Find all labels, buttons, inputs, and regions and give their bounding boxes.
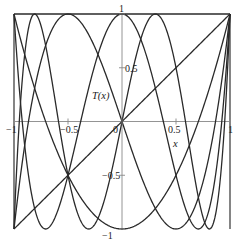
x-axis-label: x <box>172 138 178 149</box>
y-tick-label: −1 <box>102 230 113 241</box>
y-tick-label: 0.5 <box>125 63 138 74</box>
y-axis-label: T(x) <box>92 90 110 102</box>
x-tick-label: −1 <box>6 124 17 135</box>
y-tick-label: −0.5 <box>102 170 120 181</box>
y-tick-label: 1 <box>119 3 124 14</box>
x-tick-label: 0 <box>113 124 118 135</box>
chebyshev-chart: −1−0.500.5110.5−0.5−1 T(x) x <box>0 0 240 243</box>
tick-labels: −1−0.500.5110.5−0.5−1 <box>6 3 233 241</box>
x-tick-label: 0.5 <box>168 124 181 135</box>
x-tick-label: 1 <box>228 124 233 135</box>
x-tick-label: −0.5 <box>60 124 78 135</box>
